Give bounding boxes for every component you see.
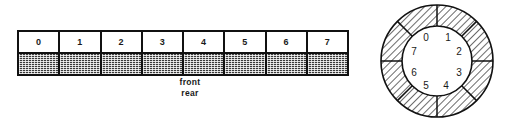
rear-pointer-label: rear: [155, 88, 225, 99]
ring-number-label: 1: [445, 32, 451, 43]
array-index-row: 0 1 2 3 4 5 6 7: [17, 30, 349, 53]
array-index-cell: 7: [308, 32, 347, 52]
ring-number-label: 2: [456, 46, 462, 57]
array-slot-cell: [267, 54, 308, 74]
ring-number-label: 7: [411, 46, 417, 57]
ring-hatch-band: [378, 3, 498, 123]
array-slot-cell: [60, 54, 101, 74]
array-slot-cell: [102, 54, 143, 74]
array-index-cell: 4: [184, 32, 225, 52]
ring-number-label: 3: [456, 67, 462, 78]
ring-number-label: 4: [443, 80, 449, 91]
circular-queue-svg: 0 1 2 3 4 5 6 7: [378, 3, 498, 123]
array-index-cell: 2: [102, 32, 143, 52]
linear-array-queue: 0 1 2 3 4 5 6 7: [17, 30, 349, 76]
array-slot-cell: [308, 54, 347, 74]
circular-ring-queue: 0 1 2 3 4 5 6 7: [378, 3, 498, 123]
array-slot-row: [17, 53, 349, 76]
array-index-cell: 6: [267, 32, 308, 52]
array-index-cell: 5: [225, 32, 266, 52]
array-index-cell: 1: [60, 32, 101, 52]
array-slot-cell: [143, 54, 184, 74]
array-slot-cell: [19, 54, 60, 74]
ring-number-label: 0: [423, 32, 429, 43]
array-slot-cell: [184, 54, 225, 74]
array-index-cell: 3: [143, 32, 184, 52]
array-slot-cell: [225, 54, 266, 74]
queue-pointer-labels: front rear: [155, 77, 225, 99]
ring-number-label: 5: [423, 80, 429, 91]
ring-number-label: 6: [411, 67, 417, 78]
front-pointer-label: front: [155, 77, 225, 88]
array-index-cell: 0: [19, 32, 60, 52]
